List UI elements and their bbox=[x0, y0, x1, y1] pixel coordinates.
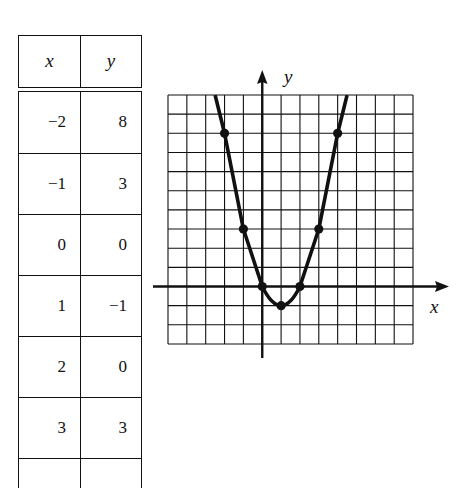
point-neg1-3 bbox=[239, 224, 248, 233]
axes bbox=[153, 70, 449, 358]
grid bbox=[168, 95, 413, 344]
point-3-3 bbox=[314, 224, 323, 233]
point-2-0 bbox=[295, 282, 304, 291]
point-1-neg1 bbox=[277, 301, 286, 310]
y-axis-arrow-icon bbox=[257, 70, 268, 84]
x-axis-label: x bbox=[429, 296, 439, 317]
point-neg2-8 bbox=[220, 129, 229, 138]
y-axis-label: y bbox=[282, 66, 293, 87]
point-0-0 bbox=[258, 282, 267, 291]
x-axis-arrow-icon bbox=[435, 281, 449, 292]
point-4-8 bbox=[333, 129, 342, 138]
